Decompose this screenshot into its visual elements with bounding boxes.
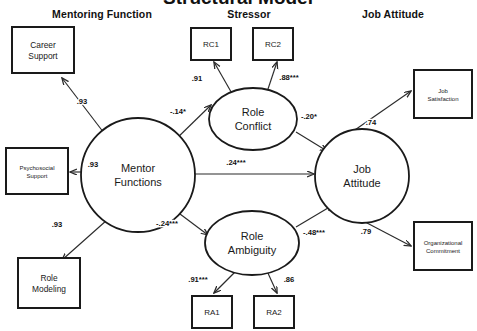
model-canvas: Structural Model Mentoring FunctionStres…: [0, 0, 477, 331]
observed-node-organizational-commitment: OrganizationalCommitment: [414, 222, 472, 270]
coefficient-mf-to-role-ambiguity: -.24***: [156, 219, 178, 228]
coefficient-mf-to-psychosocial: .93: [88, 160, 99, 169]
latent-node-mentor-functions: MentorFunctions: [81, 118, 195, 232]
coefficient-rc-to-rc1: .91: [192, 74, 203, 83]
node-label-rc1: RC1: [203, 40, 220, 49]
path-mf-to-role-modeling: [62, 220, 107, 260]
coefficient-ja-to-job-satisfaction: .74: [366, 118, 377, 127]
node-label-career-support: CareerSupport: [28, 40, 58, 61]
coefficient-ra-to-job-attitude: -.48***: [303, 228, 325, 237]
coefficient-rc-to-rc2: .88***: [279, 73, 298, 82]
node-label-rc2: RC2: [265, 40, 282, 49]
coefficient-ra-to-ra2: .86: [284, 275, 295, 284]
path-ra-to-ra2: [267, 271, 277, 293]
observed-node-career-support: CareerSupport: [12, 27, 74, 73]
coefficient-mf-to-job-attitude: .24***: [226, 158, 245, 167]
observed-node-rc2: RC2: [253, 28, 293, 60]
node-label-ra2: RA2: [266, 308, 282, 317]
section-header-stressor: Stressor: [227, 8, 270, 20]
coefficient-rc-to-job-attitude: -.20*: [301, 112, 317, 121]
coefficient-ja-to-org-commitment: .79: [361, 227, 372, 236]
observed-node-job-satisfaction: JobSatisfaction: [414, 70, 472, 118]
coefficient-mf-to-role-modeling: .93: [52, 220, 63, 229]
observed-node-psychosocial-support: PsychosocialSupport: [6, 148, 68, 194]
section-header-job-attitude: Job Attitude: [362, 8, 424, 20]
section-header-mentoring-function: Mentoring Function: [52, 8, 152, 20]
observed-node-role-modeling: RoleModeling: [18, 258, 80, 308]
latent-node-role-ambiguity: RoleAmbiguity: [205, 211, 299, 275]
coefficient-mf-to-role-conflict: -.14*: [170, 107, 186, 116]
coefficient-ra-to-ra1: .91***: [188, 275, 207, 284]
path-rc-to-job-attitude: [296, 132, 327, 151]
section-headers: Mentoring FunctionStressorJob Attitude: [52, 8, 424, 20]
path-ra-to-ra1: [214, 271, 236, 293]
observed-node-rc1: RC1: [191, 28, 231, 60]
observed-node-ra2: RA2: [254, 296, 294, 328]
observed-node-ra1: RA1: [192, 296, 232, 328]
structural-model-diagram: Structural Model Mentoring FunctionStres…: [0, 0, 477, 331]
latent-node-role-conflict: RoleConflict: [209, 88, 297, 150]
figure-title: Structural Model: [163, 0, 313, 8]
model-nodes: CareerSupportPsychosocialSupportRoleMode…: [6, 27, 472, 328]
node-label-ra1: RA1: [204, 308, 220, 317]
coefficient-mf-to-career-support: .93: [77, 97, 88, 106]
latent-node-job-attitude: JobAttitude: [315, 129, 409, 223]
